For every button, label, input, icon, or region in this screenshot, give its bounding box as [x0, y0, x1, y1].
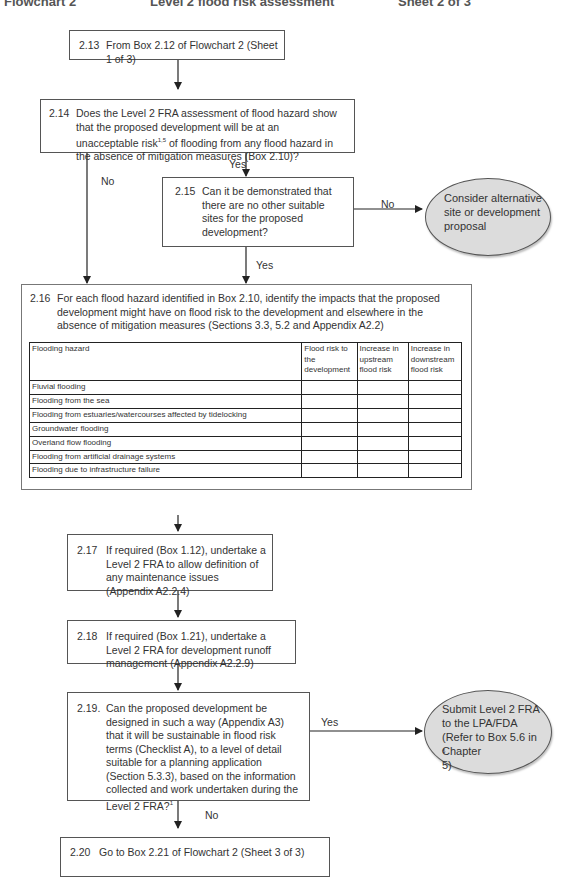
box-2-20: 2.20 Go to Box 2.21 of Flowchart 2 (Shee…: [60, 837, 330, 877]
table-row: Flooding from the sea: [30, 395, 462, 409]
table-row: Flooding from artificial drainage system…: [30, 450, 462, 464]
input-cell[interactable]: [357, 464, 408, 478]
label-yes: Yes: [321, 716, 338, 728]
box-text: From Box 2.12 of Flowchart 2 (Sheet 1 of…: [106, 39, 284, 66]
box-number: 2.13: [79, 39, 106, 66]
box-number: 2.15: [175, 185, 202, 239]
hazard-cell: Flooding due to infrastructure failure: [30, 464, 302, 478]
box-text: Go to Box 2.21 of Flowchart 2 (Sheet 3 o…: [99, 846, 323, 860]
input-cell[interactable]: [357, 423, 408, 437]
terminal-line: to the LPA/FDA: [442, 717, 518, 731]
table-header: Flood risk to the development: [302, 343, 357, 381]
hazard-cell: Flooding from the sea: [30, 395, 302, 409]
input-cell[interactable]: [302, 464, 357, 478]
box-2-19: 2.19. Can the proposed development be de…: [67, 692, 310, 801]
input-cell[interactable]: [302, 437, 357, 451]
terminal-line: Consider alternative: [444, 192, 542, 206]
terminal-line: Chapter 5)6: [442, 745, 445, 761]
table-row: Overland flow flooding: [30, 437, 462, 451]
box-text: If required (Box 1.12), undertake a Leve…: [106, 544, 266, 598]
terminal-line: Submit Level 2 FRA: [442, 703, 540, 717]
table-header: Flooding hazard: [30, 343, 302, 381]
table-header: Increase in downstream flood risk: [408, 343, 461, 381]
box-number: 2.14: [49, 107, 76, 164]
footnote-ref: 1: [170, 800, 173, 806]
label-no: No: [101, 175, 114, 187]
table-row: Flooding from estuaries/watercourses aff…: [30, 409, 462, 423]
hazard-cell: Fluvial flooding: [30, 381, 302, 395]
input-cell[interactable]: [302, 450, 357, 464]
label-yes: Yes: [229, 158, 246, 170]
terminal-submit-fra: Submit Level 2 FRA to the LPA/FDA (Refer…: [424, 690, 552, 774]
box-number: 2.18: [77, 630, 106, 671]
table-row: Groundwater flooding: [30, 423, 462, 437]
input-cell[interactable]: [357, 395, 408, 409]
box-text: If required (Box 1.21), undertake a Leve…: [106, 630, 289, 671]
input-cell[interactable]: [302, 381, 357, 395]
box-text: Can the proposed development be designed…: [106, 702, 303, 813]
label-yes: Yes: [256, 259, 273, 271]
table-header: Increase in upstream flood risk: [357, 343, 408, 381]
input-cell[interactable]: [408, 437, 461, 451]
terminal-consider-alternative: Consider alternative site or development…: [425, 178, 551, 256]
input-cell[interactable]: [357, 450, 408, 464]
input-cell[interactable]: [408, 464, 461, 478]
label-no: No: [205, 809, 218, 821]
box-2-14: 2.14 Does the Level 2 FRA assessment of …: [40, 99, 355, 153]
input-cell[interactable]: [408, 395, 461, 409]
input-cell[interactable]: [357, 409, 408, 423]
box-number: 2.17: [77, 544, 106, 598]
input-cell[interactable]: [408, 409, 461, 423]
hazard-cell: Flooding from artificial drainage system…: [30, 450, 302, 464]
footnote-ref: 1,5: [158, 137, 166, 143]
terminal-line: (Refer to Box 5.6 in: [442, 731, 537, 745]
input-cell[interactable]: [408, 381, 461, 395]
input-cell[interactable]: [357, 381, 408, 395]
input-cell[interactable]: [302, 423, 357, 437]
terminal-line: proposal: [444, 220, 486, 234]
box-2-15: 2.15 Can it be demonstrated that there a…: [162, 177, 354, 247]
table-row: Fluvial flooding: [30, 381, 462, 395]
hazard-cell: Overland flow flooding: [30, 437, 302, 451]
box-number: 2.19.: [77, 702, 106, 813]
box-2-18: 2.18 If required (Box 1.21), undertake a…: [67, 620, 296, 664]
box-text: Does the Level 2 FRA assessment of flood…: [76, 107, 344, 164]
hazard-cell: Groundwater flooding: [30, 423, 302, 437]
terminal-line: site or development: [444, 206, 540, 220]
table-row: Flooding due to infrastructure failure: [30, 464, 462, 478]
hazard-cell: Flooding from estuaries/watercourses aff…: [30, 409, 302, 423]
input-cell[interactable]: [357, 437, 408, 451]
box-number: 2.20: [70, 846, 99, 860]
box-text: Can it be demonstrated that there are no…: [202, 185, 347, 239]
input-cell[interactable]: [408, 450, 461, 464]
input-cell[interactable]: [408, 423, 461, 437]
box-2-13: 2.13 From Box 2.12 of Flowchart 2 (Sheet…: [69, 30, 285, 60]
table-header-row: Flooding hazard Flood risk to the develo…: [30, 343, 462, 381]
input-cell[interactable]: [302, 409, 357, 423]
input-cell[interactable]: [302, 395, 357, 409]
label-no: No: [381, 198, 394, 210]
flooding-hazard-table: Flooding hazard Flood risk to the develo…: [29, 342, 462, 478]
box-2-17: 2.17 If required (Box 1.12), undertake a…: [67, 534, 273, 591]
box-text: For each flood hazard identified in Box …: [57, 292, 463, 333]
box-number: 2.16: [30, 292, 57, 333]
